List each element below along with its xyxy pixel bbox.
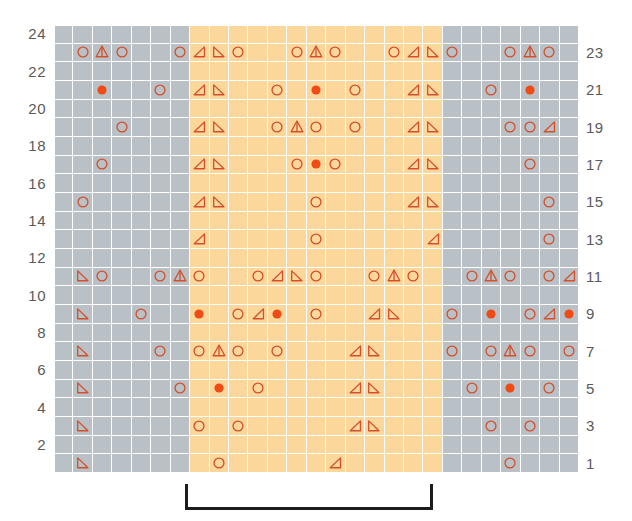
chart-cell <box>268 25 287 44</box>
chart-cell <box>210 100 229 119</box>
chart-cell <box>560 230 579 249</box>
yarn-over-icon <box>501 454 520 473</box>
chart-cell <box>93 62 112 81</box>
chart-cell <box>404 324 423 343</box>
chart-cell <box>482 137 501 156</box>
chart-cell <box>93 193 112 212</box>
chart-cell <box>248 118 267 137</box>
chart-cell <box>93 100 112 119</box>
chart-cell <box>132 398 151 417</box>
chart-cell <box>307 417 326 436</box>
chart-cell <box>501 436 520 455</box>
chart-cell <box>482 286 501 305</box>
right-decrease-icon <box>73 417 92 436</box>
chart-cell <box>229 137 248 156</box>
chart-cell <box>385 454 404 473</box>
chart-cell <box>326 25 345 44</box>
yarn-over-icon <box>443 342 462 361</box>
chart-cell <box>346 230 365 249</box>
chart-cell <box>229 398 248 417</box>
right-decrease-icon <box>365 380 384 399</box>
chart-cell <box>248 436 267 455</box>
chart-cell <box>229 174 248 193</box>
chart-cell <box>423 25 442 44</box>
chart-cell <box>385 137 404 156</box>
chart-cell <box>307 62 326 81</box>
left-decrease-icon <box>540 118 559 137</box>
chart-cell <box>307 436 326 455</box>
chart-cell <box>112 174 131 193</box>
chart-cell <box>404 25 423 44</box>
chart-cell <box>443 380 462 399</box>
chart-cell <box>54 25 73 44</box>
chart-cell <box>385 81 404 100</box>
chart-cell <box>73 436 92 455</box>
chart-cell <box>443 324 462 343</box>
yarn-over-icon <box>151 81 170 100</box>
chart-cell <box>462 137 481 156</box>
chart-cell <box>482 249 501 268</box>
chart-cell <box>501 100 520 119</box>
chart-cell <box>560 436 579 455</box>
left-decrease-icon <box>346 342 365 361</box>
yarn-over-icon <box>229 342 248 361</box>
chart-cell <box>462 230 481 249</box>
chart-cell <box>540 417 559 436</box>
chart-cell <box>132 249 151 268</box>
chart-cell <box>54 305 73 324</box>
chart-cell <box>151 212 170 231</box>
row-number-right: 13 <box>586 232 604 247</box>
chart-cell <box>248 44 267 63</box>
row-number-right: 17 <box>586 157 604 172</box>
chart-cell <box>385 342 404 361</box>
chart-cell <box>482 44 501 63</box>
chart-cell <box>248 249 267 268</box>
chart-cell <box>501 417 520 436</box>
left-decrease-icon <box>365 305 384 324</box>
yarn-over-icon <box>443 44 462 63</box>
chart-cell <box>54 454 73 473</box>
chart-cell <box>443 230 462 249</box>
chart-cell <box>462 417 481 436</box>
chart-cell <box>521 137 540 156</box>
row-number-right: 9 <box>586 306 595 321</box>
yarn-over-icon <box>287 44 306 63</box>
chart-cell <box>462 62 481 81</box>
chart-cell <box>54 118 73 137</box>
chart-cell <box>307 249 326 268</box>
left-decrease-icon <box>190 230 209 249</box>
yarn-over-icon <box>229 44 248 63</box>
chart-cell <box>132 81 151 100</box>
right-decrease-icon <box>423 156 442 175</box>
chart-cell <box>93 305 112 324</box>
chart-cell <box>112 249 131 268</box>
yarn-over-icon <box>501 118 520 137</box>
right-decrease-icon <box>385 305 404 324</box>
chart-cell <box>112 305 131 324</box>
center-double-decrease-icon <box>210 342 229 361</box>
chart-cell <box>326 286 345 305</box>
chart-cell <box>73 361 92 380</box>
chart-cell <box>307 137 326 156</box>
chart-cell <box>171 193 190 212</box>
chart-cell <box>521 249 540 268</box>
bobble-icon <box>210 380 229 399</box>
chart-cell <box>346 44 365 63</box>
chart-cell <box>112 398 131 417</box>
left-decrease-icon <box>190 193 209 212</box>
yarn-over-icon <box>482 417 501 436</box>
chart-cell <box>326 342 345 361</box>
chart-cell <box>307 342 326 361</box>
chart-cell <box>443 361 462 380</box>
chart-cell <box>385 25 404 44</box>
yarn-over-icon <box>307 118 326 137</box>
chart-cell <box>268 100 287 119</box>
chart-cell <box>73 212 92 231</box>
center-double-decrease-icon <box>287 118 306 137</box>
chart-cell <box>521 324 540 343</box>
chart-cell <box>112 193 131 212</box>
bobble-icon <box>268 305 287 324</box>
chart-cell <box>229 193 248 212</box>
yarn-over-icon <box>540 44 559 63</box>
chart-cell <box>346 398 365 417</box>
